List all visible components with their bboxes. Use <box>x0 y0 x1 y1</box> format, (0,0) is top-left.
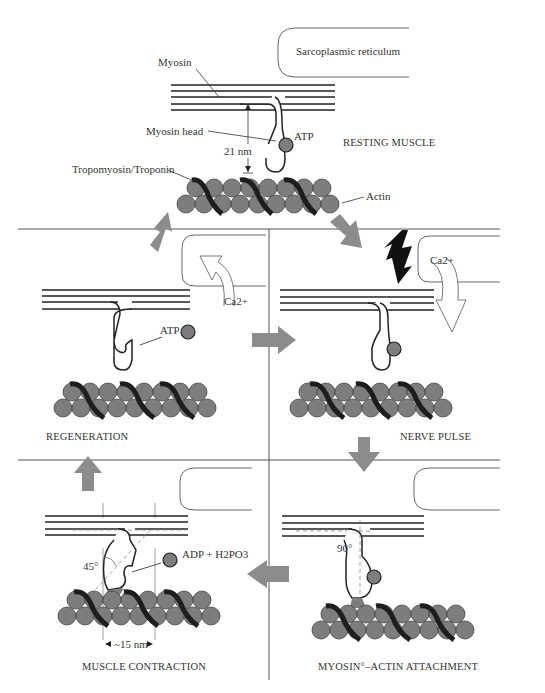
svg-text:Myosin head: Myosin head <box>146 125 204 137</box>
nerve-impulse-bolt-icon <box>384 230 412 284</box>
panel-muscle-contraction: 45° ADP + H2PO3 ~15 nm MUSCLE CONTRACTIO… <box>45 468 252 672</box>
adp-molecule-icon <box>367 570 381 584</box>
svg-text:RESTING MUSCLE: RESTING MUSCLE <box>343 137 435 148</box>
myosin-filament <box>171 85 335 110</box>
svg-text:NERVE PULSE: NERVE PULSE <box>400 431 471 442</box>
arrow-to-attachment <box>348 437 380 472</box>
label-sarcoplasmic-reticulum: Sarcoplasmic reticulum <box>296 45 401 57</box>
atp-molecule-icon <box>387 342 401 356</box>
myosin-head <box>344 529 372 598</box>
svg-text:Myosin: Myosin <box>158 56 192 68</box>
panel-regeneration: Ca2+ ATP REGENERATION <box>42 235 266 442</box>
svg-text:ATP: ATP <box>294 130 314 142</box>
calcium-release-arrow <box>432 258 466 332</box>
svg-text:Tropomyosin/Troponin: Tropomyosin/Troponin <box>72 163 175 175</box>
actin-filament <box>177 179 339 214</box>
myosin-head <box>104 529 137 590</box>
svg-text:Ca2+: Ca2+ <box>430 254 454 266</box>
adp-molecule-icon <box>163 553 177 567</box>
myosin-head <box>110 302 132 370</box>
svg-text:90°: 90° <box>337 542 352 554</box>
svg-text:Actin: Actin <box>366 190 391 202</box>
panel-resting-muscle: Sarcoplasmic reticulum ATP Myosin Myosin… <box>72 28 435 214</box>
svg-text:~15 nm: ~15 nm <box>114 638 148 650</box>
atp-molecule-icon <box>279 138 293 152</box>
svg-text:MUSCLE CONTRACTION: MUSCLE CONTRACTION <box>82 661 206 672</box>
svg-text:ADP + H2PO3: ADP + H2PO3 <box>182 548 249 560</box>
svg-text:MYOSIN°–ACTIN ATTACHMENT: MYOSIN°–ACTIN ATTACHMENT <box>318 661 479 672</box>
panel-myosin-actin-attachment: 90° MYOSIN°–ACTIN ATTACHMENT <box>282 468 500 672</box>
arrow-to-nerve-pulse <box>330 214 362 248</box>
arrow-to-nerve-pulse-right <box>252 326 296 354</box>
cross-bridge-cycle-diagram: Sarcoplasmic reticulum ATP Myosin Myosin… <box>0 0 545 693</box>
myosin-head <box>368 303 390 370</box>
svg-text:ATP: ATP <box>160 324 180 336</box>
svg-text:45°: 45° <box>83 560 98 572</box>
arrow-to-resting <box>150 212 172 252</box>
panel-nerve-pulse: Ca2+ NERVE PULSE <box>280 236 500 442</box>
arrow-to-regeneration <box>74 456 102 491</box>
svg-text:Ca2+: Ca2+ <box>224 295 248 307</box>
svg-text:21 nm: 21 nm <box>224 145 252 157</box>
arrow-to-contraction <box>247 560 289 588</box>
svg-text:REGENERATION: REGENERATION <box>46 431 129 442</box>
atp-molecule-icon <box>181 325 195 339</box>
